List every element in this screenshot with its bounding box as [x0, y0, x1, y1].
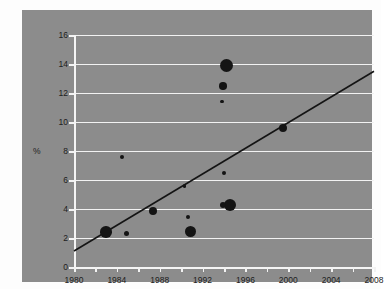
data-point-bubble: [149, 207, 157, 215]
x-axis-tick: [288, 267, 290, 272]
gridline: [74, 151, 374, 152]
y-axis-tick-label: 8: [48, 146, 68, 156]
plot-area: 0246810121416 19801984198819921996200020…: [74, 35, 374, 267]
x-axis-tick: [181, 267, 183, 272]
y-axis-tick-label: 6: [48, 175, 68, 185]
gridline: [74, 209, 374, 210]
data-point-bubble: [185, 226, 196, 237]
x-axis-tick-label: 1988: [143, 275, 177, 285]
x-axis-tick: [224, 267, 226, 272]
x-axis-tick-label: 2008: [357, 275, 388, 285]
y-axis-tick: [69, 93, 74, 95]
x-axis-tick: [374, 267, 376, 272]
x-axis-tick-label: 2000: [271, 275, 305, 285]
data-point-bubble: [222, 171, 227, 176]
data-point-bubble: [220, 100, 224, 104]
x-axis-tick: [245, 267, 247, 272]
y-axis-tick: [69, 122, 74, 124]
data-point-bubble: [183, 184, 187, 188]
y-axis-label: %: [33, 146, 41, 156]
x-axis-tick-label: 1980: [57, 275, 91, 285]
x-axis-tick-label: 1984: [100, 275, 134, 285]
y-axis-tick-label: 4: [48, 204, 68, 214]
y-axis-tick: [69, 238, 74, 240]
y-axis-tick: [69, 209, 74, 211]
data-point-bubble: [279, 124, 288, 133]
y-axis-tick: [69, 180, 74, 182]
y-axis-tick-label: 2: [48, 233, 68, 243]
data-point-bubble: [219, 82, 227, 90]
data-point-bubble: [220, 59, 233, 72]
x-axis-tick: [331, 267, 333, 272]
y-axis-tick-label: 10: [48, 117, 68, 127]
data-point-bubble: [100, 226, 112, 238]
x-axis-tick: [117, 267, 119, 272]
x-axis-tick: [95, 267, 97, 272]
x-axis-tick: [138, 267, 140, 272]
y-axis-tick-label: 16: [48, 30, 68, 40]
y-axis-tick-label: 12: [48, 88, 68, 98]
y-axis-tick: [69, 64, 74, 66]
x-axis-tick-label: 1996: [228, 275, 262, 285]
x-axis-tick: [203, 267, 205, 272]
gridline: [74, 35, 374, 36]
data-point-bubble: [124, 231, 130, 237]
x-axis-tick: [74, 267, 76, 272]
gridline: [74, 93, 374, 94]
chart-panel: 0246810121416 19801984198819921996200020…: [22, 10, 372, 282]
data-point-bubble: [120, 155, 125, 160]
y-axis-tick: [69, 35, 74, 37]
y-axis-tick: [69, 151, 74, 153]
x-axis-tick: [353, 267, 355, 272]
data-point-bubble: [220, 202, 226, 208]
gridline: [74, 180, 374, 181]
x-axis-tick-label: 1992: [186, 275, 220, 285]
x-axis-tick: [160, 267, 162, 272]
x-axis-tick-label: 2004: [314, 275, 348, 285]
gridline: [74, 122, 374, 123]
y-axis-tick-label: 0: [48, 262, 68, 272]
data-point-bubble: [224, 199, 236, 211]
y-axis-line: [74, 35, 76, 267]
x-axis-tick: [310, 267, 312, 272]
y-axis-tick-label: 14: [48, 59, 68, 69]
x-axis-tick: [267, 267, 269, 272]
gridline: [74, 238, 374, 239]
data-point-bubble: [186, 215, 190, 219]
